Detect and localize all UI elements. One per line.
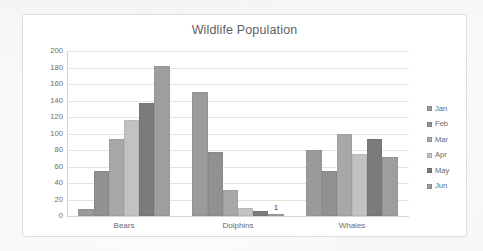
legend-item-jun[interactable]: Jun xyxy=(427,179,473,195)
legend-swatch-icon xyxy=(427,106,432,111)
legend-item-feb[interactable]: Feb xyxy=(427,117,473,133)
chart-title: Wildlife Population xyxy=(23,23,466,37)
y-axis-tick-label: 100 xyxy=(33,130,63,138)
legend-item-mar[interactable]: Mar xyxy=(427,132,473,148)
y-axis-tick-label: 0 xyxy=(33,212,63,220)
y-axis-tick-label: 20 xyxy=(33,196,63,204)
bar-bears-jun[interactable] xyxy=(154,66,169,216)
y-axis-tick-label: 140 xyxy=(33,97,63,105)
y-axis-tick-label: 40 xyxy=(33,179,63,187)
bars-layer: 1 xyxy=(67,51,409,216)
bar-whales-jan[interactable] xyxy=(306,150,321,216)
bar-bears-mar[interactable] xyxy=(109,139,124,216)
bar-dolphins-jun[interactable] xyxy=(268,214,283,216)
category-label-whales: Whales xyxy=(295,221,409,230)
bar-dolphins-may[interactable] xyxy=(253,211,268,216)
legend-label: Apr xyxy=(435,151,447,159)
category-label-dolphins: Dolphins xyxy=(181,221,295,230)
bar-group-dolphins: 1 xyxy=(192,51,283,216)
chart-frame: Wildlife Population 02040608010012014016… xyxy=(22,14,467,237)
plot-area: 1 xyxy=(67,51,409,216)
bar-bears-feb[interactable] xyxy=(94,171,109,216)
bar-dolphins-mar[interactable] xyxy=(223,190,238,216)
legend-item-jan[interactable]: Jan xyxy=(427,101,473,117)
y-axis-tick-label: 60 xyxy=(33,163,63,171)
legend-swatch-icon xyxy=(427,153,432,158)
bar-dolphins-apr[interactable] xyxy=(238,208,253,216)
legend-label: Feb xyxy=(435,120,448,128)
bar-whales-apr[interactable] xyxy=(352,154,367,216)
legend-item-may[interactable]: May xyxy=(427,163,473,179)
bar-whales-may[interactable] xyxy=(367,139,382,216)
bar-bears-apr[interactable] xyxy=(124,120,139,216)
bar-bears-may[interactable] xyxy=(139,103,154,216)
bar-bears-jan[interactable] xyxy=(78,209,93,216)
legend-label: May xyxy=(435,167,449,175)
y-axis-tick-label: 80 xyxy=(33,146,63,154)
bar-whales-mar[interactable] xyxy=(337,134,352,217)
y-axis-tick-label: 180 xyxy=(33,64,63,72)
data-label: 1 xyxy=(268,204,283,212)
x-axis-category-labels: BearsDolphinsWhales xyxy=(67,221,409,235)
y-axis-tick-label: 200 xyxy=(33,47,63,55)
legend-label: Mar xyxy=(435,136,448,144)
legend-swatch-icon xyxy=(427,184,432,189)
bar-group-whales xyxy=(306,51,397,216)
bar-whales-feb[interactable] xyxy=(322,171,337,216)
bar-group-bears xyxy=(78,51,169,216)
y-axis-tick-label: 160 xyxy=(33,80,63,88)
bar-dolphins-feb[interactable] xyxy=(208,152,223,216)
legend-swatch-icon xyxy=(427,137,432,142)
gridline xyxy=(67,216,409,217)
category-label-bears: Bears xyxy=(67,221,181,230)
chart-legend: JanFebMarAprMayJun xyxy=(427,101,473,194)
bar-whales-jun[interactable] xyxy=(382,157,397,216)
y-axis-tick-labels: 020406080100120140160180200 xyxy=(33,51,63,216)
legend-swatch-icon xyxy=(427,122,432,127)
bar-dolphins-jan[interactable] xyxy=(192,92,207,216)
legend-swatch-icon xyxy=(427,168,432,173)
y-axis-tick-label: 120 xyxy=(33,113,63,121)
legend-item-apr[interactable]: Apr xyxy=(427,148,473,164)
legend-label: Jan xyxy=(435,105,447,113)
legend-label: Jun xyxy=(435,182,447,190)
